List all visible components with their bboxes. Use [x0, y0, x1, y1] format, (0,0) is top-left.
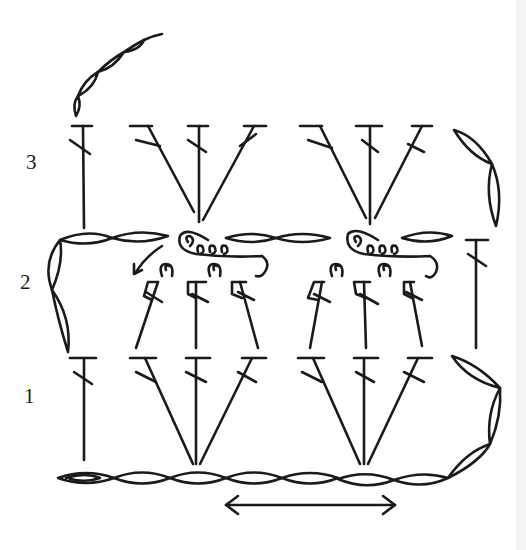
foundation-chain	[58, 356, 500, 485]
row-3-stitches	[70, 126, 499, 228]
row-2-stitches	[48, 231, 488, 352]
top-chain	[74, 34, 162, 116]
row-1-stitches	[70, 358, 432, 464]
crochet-chart	[0, 0, 526, 550]
row-label-2: 2	[20, 272, 31, 293]
direction-arrow	[226, 496, 395, 514]
row-label-1: 1	[24, 386, 35, 407]
row-label-3: 3	[26, 152, 37, 173]
